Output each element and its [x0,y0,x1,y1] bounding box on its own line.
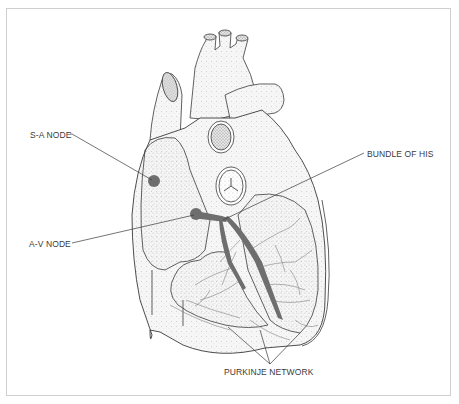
bundle-of-his-label: BUNDLE OF HIS [367,149,433,159]
purkinje-network-label: PURKINJE NETWORK [224,367,313,377]
heart-illustration [0,0,459,404]
superior-vena-cava [150,71,182,140]
sa-node-label: S-A NODE [30,130,71,140]
av-node-label: A-V NODE [29,239,71,249]
sa-node-leader [70,134,152,180]
sa-node-marker [148,175,160,187]
